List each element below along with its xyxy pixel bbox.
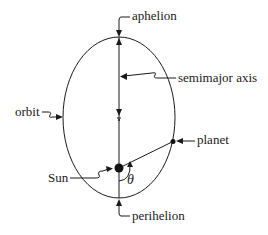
sun-icon: [115, 164, 124, 173]
label-orbit: orbit: [15, 105, 40, 119]
sun-leader: [70, 169, 108, 178]
orbit-diagram: [0, 0, 268, 235]
sun-leader-arrow-icon: [106, 166, 113, 172]
label-theta: θ: [127, 173, 134, 187]
center-dot: [118, 119, 120, 121]
semimajor-leader: [124, 73, 176, 78]
semimajor-arrow-bottom: [116, 109, 122, 116]
planet-leader-arrow-icon: [176, 138, 183, 144]
label-semimajor-axis: semimajor axis: [178, 71, 257, 85]
label-sun: Sun: [48, 171, 68, 185]
orbit-leader: [42, 112, 58, 117]
semimajor-leader-arrow-icon: [120, 73, 127, 80]
aphelion-arrow-icon: [116, 30, 122, 37]
orbit-leader-arrow-icon: [56, 114, 63, 120]
label-aphelion: aphelion: [132, 9, 177, 23]
planet-icon: [171, 139, 176, 144]
label-planet: planet: [197, 133, 229, 147]
label-perihelion: perihelion: [132, 209, 185, 223]
perihelion-arrow-icon: [116, 199, 122, 206]
semimajor-arrow-top: [116, 38, 122, 45]
